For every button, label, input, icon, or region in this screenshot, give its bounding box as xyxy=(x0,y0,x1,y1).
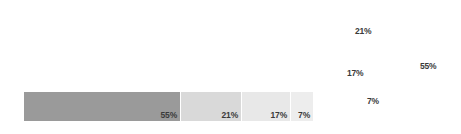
bar-segment-4-label: 7% xyxy=(298,110,310,120)
pie-label-21: 21% xyxy=(355,26,371,36)
chart-canvas: 55% 21% 17% 7% xyxy=(0,0,461,134)
pie-label-7: 7% xyxy=(367,96,379,106)
bar-segment-3-label: 17% xyxy=(271,110,287,120)
pie-label-17: 17% xyxy=(347,68,363,78)
bar-segment-1-label: 55% xyxy=(161,110,177,120)
bar-segment-4: 7% xyxy=(291,92,313,121)
bar-segment-2-label: 21% xyxy=(222,110,238,120)
pie-label-55: 55% xyxy=(420,61,436,71)
bar-segment-1: 55% xyxy=(24,92,180,121)
bar-segment-2: 21% xyxy=(181,92,241,121)
pie-chart-area: 21% 17% 7% 55% xyxy=(325,0,461,134)
stacked-bar-chart: 55% 21% 17% 7% xyxy=(24,92,313,121)
bar-segment-3: 17% xyxy=(242,92,290,121)
